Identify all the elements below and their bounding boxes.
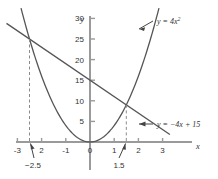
x-tick-label: -3	[14, 146, 22, 155]
parabola-equation-base: y = 4x	[156, 17, 178, 26]
x-tick-label: 3	[160, 146, 165, 155]
x-axis-label: x	[195, 141, 200, 151]
line-equation-label: y = −4x + 15	[156, 120, 200, 129]
y-tick-label: 5	[80, 117, 85, 126]
graph-canvas: -32-10123 51015202530 x y y = 4x2 y = −4…	[0, 0, 218, 179]
y-tick-label: 10	[75, 97, 84, 106]
annotation-label-left: −2.5	[25, 161, 41, 170]
x-tick-label: 1	[112, 146, 117, 155]
y-tick-label: 20	[75, 56, 84, 65]
parabola-equation-exponent: 2	[178, 16, 181, 22]
x-tick-label: 0	[88, 146, 93, 155]
x-tick-label: 2	[39, 146, 44, 155]
y-axis-label: y	[79, 14, 84, 24]
x-tick-label: 2	[136, 146, 141, 155]
annotation-label-right: 1.5	[113, 161, 125, 170]
x-tick-label: -1	[62, 146, 70, 155]
parabola-equation-label: y = 4x2	[156, 16, 181, 26]
y-tick-label: 25	[75, 35, 84, 44]
y-tick-label: 15	[75, 76, 84, 85]
